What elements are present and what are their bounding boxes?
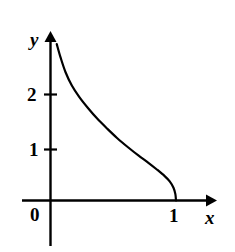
figure-canvas: y x 0 2 1 1 — [0, 0, 235, 252]
tick-label-y-2: 2 — [27, 85, 37, 104]
y-axis-arrowhead — [45, 31, 57, 42]
tick-label-y-1: 1 — [29, 140, 39, 159]
y-axis-label: y — [30, 30, 38, 49]
curve-path — [57, 44, 176, 200]
x-axis-label: x — [205, 208, 215, 227]
data-curve — [57, 44, 176, 200]
y-axis — [45, 31, 57, 246]
tick-label-x-1: 1 — [169, 206, 179, 225]
x-axis-arrowhead — [206, 195, 217, 207]
origin-label: 0 — [30, 205, 40, 224]
